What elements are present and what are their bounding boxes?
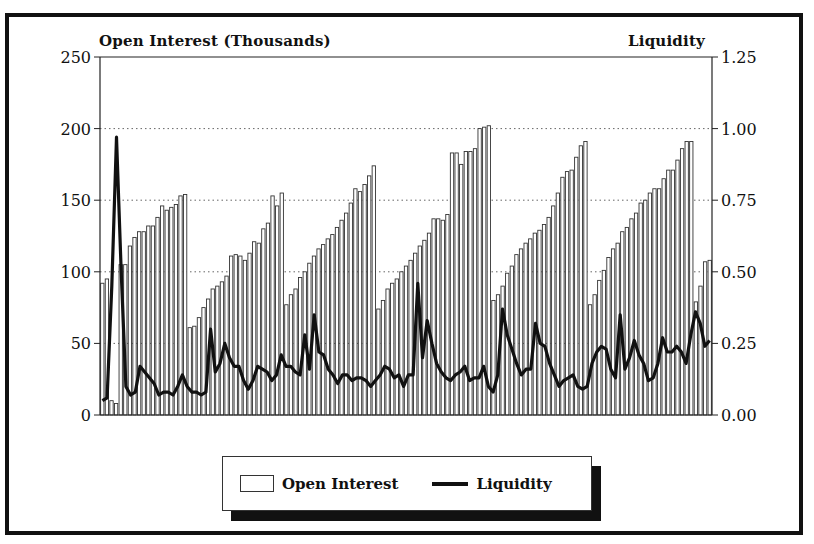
right-tick-label: 1.00: [721, 120, 757, 139]
left-tick-label: 0: [81, 406, 91, 425]
open-interest-bar: [294, 289, 297, 415]
open-interest-bar: [708, 260, 711, 415]
open-interest-bar: [386, 289, 389, 415]
open-interest-bar: [285, 305, 288, 415]
open-interest-bar: [542, 225, 545, 415]
open-interest-bar: [529, 239, 532, 415]
open-interest-bar: [473, 149, 476, 415]
open-interest-bar: [280, 193, 283, 415]
open-interest-bar: [147, 226, 150, 415]
open-interest-bar: [579, 146, 582, 415]
open-interest-bar: [634, 213, 637, 415]
open-interest-bar: [322, 245, 325, 415]
open-interest-bar: [409, 260, 412, 415]
left-tick-label: 50: [71, 334, 91, 353]
open-interest-bar: [262, 229, 265, 415]
open-interest-bar: [432, 219, 435, 415]
right-tick-label: 0.25: [721, 334, 757, 353]
open-interest-bar: [276, 206, 279, 415]
open-interest-bar: [114, 404, 117, 415]
right-tick-label: 1.25: [721, 48, 757, 67]
open-interest-bar: [404, 266, 407, 415]
open-interest-bar: [165, 210, 168, 415]
open-interest-bar: [487, 126, 490, 415]
open-interest-bar: [368, 176, 371, 415]
open-interest-bar: [216, 286, 219, 415]
legend: Open Interest Liquidity: [222, 456, 592, 511]
open-interest-bar: [607, 257, 610, 415]
open-interest-bar: [437, 219, 440, 415]
open-interest-bar: [331, 235, 334, 415]
open-interest-bar: [630, 219, 633, 415]
open-interest-bar: [680, 149, 683, 415]
open-interest-bar: [400, 272, 403, 415]
open-interest-bar: [515, 255, 518, 415]
open-interest-bar: [110, 401, 113, 415]
left-tick-label: 250: [60, 48, 91, 67]
open-interest-bar: [335, 227, 338, 415]
open-interest-swatch-icon: [240, 475, 274, 492]
open-interest-bar: [170, 207, 173, 415]
open-interest-bar: [492, 300, 495, 415]
open-interest-bar: [501, 286, 504, 415]
open-interest-bar: [188, 328, 191, 415]
open-interest-bar: [676, 160, 679, 415]
right-tick-label: 0.00: [721, 406, 757, 425]
open-interest-bar: [547, 217, 550, 415]
open-interest-bar: [349, 203, 352, 415]
open-interest-bar: [197, 318, 200, 415]
open-interest-bar: [460, 164, 463, 415]
left-tick-label: 150: [60, 191, 91, 210]
open-interest-bar: [326, 239, 329, 415]
right-tick-label: 0.50: [721, 263, 757, 282]
open-interest-bar: [584, 141, 587, 415]
open-interest-bar: [625, 227, 628, 415]
open-interest-bar: [229, 256, 232, 415]
open-interest-bar: [142, 232, 145, 415]
open-interest-bar: [202, 308, 205, 415]
open-interest-bar: [441, 220, 444, 415]
open-interest-bar: [524, 243, 527, 415]
open-interest-bar: [257, 243, 260, 415]
open-interest-bar: [193, 326, 196, 415]
open-interest-bar: [345, 213, 348, 415]
open-interest-bar: [644, 200, 647, 415]
open-interest-bar: [299, 278, 302, 415]
open-interest-bar: [243, 260, 246, 415]
open-interest-bar: [611, 249, 614, 415]
legend-label-open-interest: Open Interest: [282, 475, 398, 493]
open-interest-bar: [667, 170, 670, 415]
open-interest-bar: [446, 215, 449, 415]
open-interest-bar: [588, 305, 591, 415]
open-interest-bar: [395, 279, 398, 415]
open-interest-bar: [639, 203, 642, 415]
open-interest-bar: [340, 220, 343, 415]
liquidity-swatch-icon: [432, 482, 468, 486]
open-interest-bar: [657, 189, 660, 415]
open-interest-bar: [160, 206, 163, 415]
open-interest-bar: [538, 230, 541, 415]
open-interest-bar: [377, 309, 380, 415]
open-interest-bar: [101, 283, 104, 415]
open-interest-bar: [662, 179, 665, 415]
left-tick-label: 100: [60, 263, 91, 282]
open-interest-bar: [602, 270, 605, 415]
open-interest-bar: [699, 286, 702, 415]
open-interest-bar: [239, 256, 242, 415]
open-interest-bar: [381, 300, 384, 415]
open-interest-bar: [174, 204, 177, 415]
open-interest-bar: [266, 223, 269, 415]
open-interest-bar: [234, 255, 237, 415]
open-interest-bar: [391, 283, 394, 415]
open-interest-bar: [372, 166, 375, 415]
open-interest-bar: [685, 141, 688, 415]
open-interest-bar: [519, 249, 522, 415]
open-interest-bar: [137, 232, 140, 415]
open-interest-bar: [506, 273, 509, 415]
open-interest-bar: [552, 206, 555, 415]
open-interest-bar: [690, 141, 693, 415]
open-interest-bar: [358, 192, 361, 415]
open-interest-bar: [671, 170, 674, 415]
open-interest-bar: [252, 242, 255, 415]
left-tick-label: 200: [60, 120, 91, 139]
